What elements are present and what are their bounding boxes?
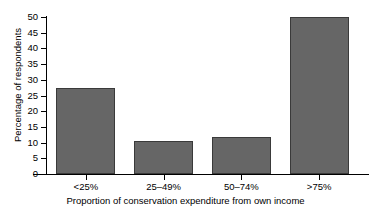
y-axis-tick <box>41 48 46 49</box>
x-axis-tick-label: <25% <box>41 182 131 192</box>
x-axis-tick-label: 50–74% <box>196 182 286 192</box>
bar <box>56 88 115 174</box>
x-axis-title: Proportion of conservation expenditure f… <box>0 196 371 206</box>
y-axis-tick-label: 20 <box>0 106 38 116</box>
x-axis-tick <box>86 175 87 180</box>
y-axis-tick-label: 30 <box>0 75 38 85</box>
x-axis-tick <box>164 175 165 180</box>
y-axis-tick-label: 40 <box>0 43 38 53</box>
plot-area <box>47 17 358 174</box>
y-axis-tick-label: 15 <box>0 122 38 132</box>
chart-title: self-generated income <box>0 0 371 1</box>
y-axis-tick-label: 35 <box>0 59 38 69</box>
x-axis-tick-label: 25–49% <box>119 182 209 192</box>
bar <box>212 137 271 174</box>
y-axis-tick <box>41 127 46 128</box>
bar-chart-figure: self-generated income Percentage of resp… <box>0 0 371 210</box>
y-axis-tick-label: 10 <box>0 138 38 148</box>
y-axis-tick <box>41 158 46 159</box>
x-axis-tick <box>319 175 320 180</box>
y-axis-tick <box>41 33 46 34</box>
y-axis-tick <box>41 64 46 65</box>
y-axis-tick-label: 45 <box>0 28 38 38</box>
y-axis-tick <box>41 96 46 97</box>
bar <box>290 17 349 174</box>
y-axis-tick <box>41 143 46 144</box>
x-axis-tick <box>241 175 242 180</box>
y-axis-tick <box>41 17 46 18</box>
y-axis-tick-label: 50 <box>0 12 38 22</box>
x-axis-tick-label: >75% <box>274 182 364 192</box>
y-axis-tick <box>41 80 46 81</box>
y-axis-tick <box>41 174 46 175</box>
y-axis-tick <box>41 111 46 112</box>
bar <box>134 141 193 174</box>
y-axis-tick-label: 25 <box>0 91 38 101</box>
y-axis-tick-label: 5 <box>0 153 38 163</box>
y-axis-tick-label: 0 <box>0 169 38 179</box>
